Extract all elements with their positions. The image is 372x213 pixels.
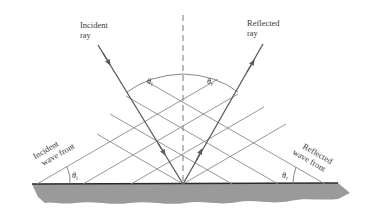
reflected-wave-fronts [97, 81, 325, 184]
theta-i-label-top: θi [147, 77, 153, 87]
reflected-front-angle-arc [293, 167, 296, 184]
incident-ray-arrow-1 [103, 53, 109, 63]
incident-wave-fronts [37, 79, 286, 184]
incident-wave-front-label: Incident wave front [31, 132, 77, 170]
incident-wave-front-4 [183, 124, 286, 184]
incident-ray-label-line2: ray [80, 30, 92, 40]
reflected-wave-front-3 [110, 114, 232, 184]
incident-front-angle-arc [67, 167, 70, 184]
reflected-ray-arrow-2 [247, 62, 253, 72]
reflected-wave-front-4 [97, 134, 183, 184]
incident-angle-arc [127, 74, 183, 92]
theta-i-label-bottom: θi [72, 171, 78, 181]
incident-wave-front-3 [131, 107, 264, 184]
incident-ray-label-line1: Incident [80, 20, 108, 30]
reflection-diagram: θi θr θi θr Incident ray Reflected ray I… [0, 0, 372, 213]
reflected-wave-front-label: Reflected wave front [291, 138, 335, 175]
incident-wave-front-1 [37, 79, 218, 184]
reflected-wave-front-2 [126, 96, 278, 184]
theta-r-label-bottom: θr [282, 171, 289, 181]
reflected-ray-label-line2: ray [247, 28, 259, 38]
reflected-ray-label-line1: Reflected [247, 18, 280, 28]
reflecting-surface-body [32, 183, 350, 204]
reflected-ray-arrow-1 [196, 151, 201, 161]
